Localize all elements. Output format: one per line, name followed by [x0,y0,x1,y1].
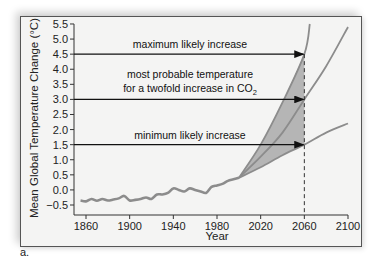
y-tick-label: 1.5 [53,139,68,151]
x-tick-label: 1860 [74,220,98,232]
x-tick-label: 1900 [117,220,141,232]
x-tick-label: 1940 [161,220,185,232]
y-tick-label: 0.0 [53,184,68,196]
y-tick-label: 0.5 [53,169,68,181]
x-tick-label: 2020 [248,220,272,232]
x-tick-label: 2060 [292,220,316,232]
panel-label: a. [20,246,29,258]
y-tick-label: 3.0 [53,93,68,105]
annotation-label: most probable temperature [127,68,253,80]
x-axis-title: Year [205,230,228,242]
x-tick-label: 2100 [336,220,360,232]
y-tick-label: 4.0 [53,63,68,75]
y-tick-label: −0.5 [46,199,68,211]
annotation-label: minimum likely increase [134,129,246,141]
temperature-chart: 5.55.04.54.03.53.02.52.01.51.00.50.0−0.5… [0,0,377,262]
y-tick-label: 2.5 [53,108,68,120]
annotation-label: maximum likely increase [133,38,248,50]
y-tick-label: 4.5 [53,48,68,60]
annotation-label: for a twofold increase in CO2 [123,82,257,97]
y-axis-title: Mean Global Temperature Change (°C) [28,18,40,218]
y-tick-label: 5.0 [53,33,68,45]
y-tick-label: 2.0 [53,124,68,136]
y-tick-label: 3.5 [53,78,68,90]
y-tick-label: 1.0 [53,154,68,166]
y-tick-label: 5.5 [53,18,68,30]
observed-temperature-line [81,178,239,202]
